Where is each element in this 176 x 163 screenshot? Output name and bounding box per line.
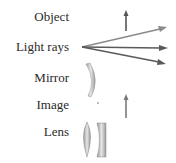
image-arrow-icon (124, 94, 129, 118)
focal-point-dot (97, 102, 99, 104)
object-arrow-icon (124, 10, 129, 31)
concave-lens-icon (97, 123, 106, 157)
light-rays-icon (82, 26, 168, 65)
convex-lens-icon (84, 122, 91, 157)
legend-symbols (0, 0, 176, 163)
mirror-icon (86, 63, 95, 97)
